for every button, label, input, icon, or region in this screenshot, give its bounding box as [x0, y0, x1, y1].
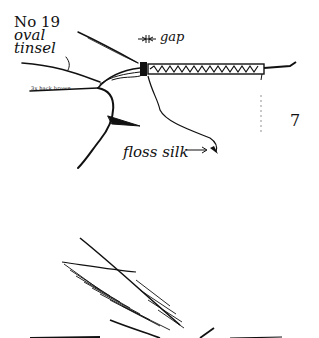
tinsel-label: No 19 oval tinsel	[14, 16, 60, 55]
gap-label: gap	[160, 30, 184, 43]
thread-wrap-band	[140, 62, 147, 76]
tinsel-label-line3: tinsel	[14, 42, 60, 55]
feather-drawing	[30, 238, 282, 338]
figure-number: 7	[290, 113, 300, 129]
ribbed-body	[148, 62, 296, 80]
floss-arrow-icon	[186, 147, 207, 153]
gap-marker-icon	[138, 35, 156, 43]
floss-silk-label: floss silk	[123, 145, 189, 160]
thread-label: 3x hack brown	[31, 86, 71, 91]
floss-silk-strand	[148, 76, 217, 152]
